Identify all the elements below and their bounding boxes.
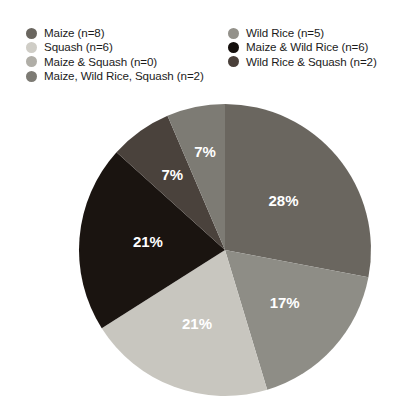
legend-label-squash: Squash (n=6) bbox=[44, 40, 113, 54]
legend-item-maize-squash[interactable]: Maize & Squash (n=0) bbox=[26, 55, 204, 69]
legend-swatch-wild-rice-icon bbox=[228, 28, 239, 39]
legend-item-squash[interactable]: Squash (n=6) bbox=[26, 40, 204, 54]
pie-slice-label-wild-rice-squash: 7% bbox=[161, 166, 183, 183]
pie-slice-label-maize-wild-rice-squash: 7% bbox=[194, 143, 216, 160]
legend-column-right: Wild Rice (n=5)Maize & Wild Rice (n=6)Wi… bbox=[228, 26, 377, 69]
legend-item-maize[interactable]: Maize (n=8) bbox=[26, 26, 204, 40]
pie-chart-figure: Maize (n=8)Squash (n=6)Maize & Squash (n… bbox=[0, 0, 417, 401]
legend-label-maize-wild-rice-squash: Maize, Wild Rice, Squash (n=2) bbox=[44, 69, 204, 83]
legend-swatch-maize-squash-icon bbox=[26, 56, 37, 67]
pie-slice-label-maize-wild-rice: 21% bbox=[133, 233, 163, 250]
legend-label-wild-rice: Wild Rice (n=5) bbox=[246, 26, 324, 40]
legend-item-wild-rice[interactable]: Wild Rice (n=5) bbox=[228, 26, 377, 40]
legend-swatch-maize-wild-rice-icon bbox=[228, 42, 239, 53]
legend-item-maize-wild-rice-squash[interactable]: Maize, Wild Rice, Squash (n=2) bbox=[26, 69, 204, 83]
chart-legend: Maize (n=8)Squash (n=6)Maize & Squash (n… bbox=[0, 0, 417, 104]
pie-slice-label-maize: 28% bbox=[268, 192, 298, 209]
legend-column-left: Maize (n=8)Squash (n=6)Maize & Squash (n… bbox=[26, 26, 204, 83]
legend-label-wild-rice-squash: Wild Rice & Squash (n=2) bbox=[246, 55, 377, 69]
legend-label-maize-squash: Maize & Squash (n=0) bbox=[44, 55, 157, 69]
legend-swatch-maize-wild-rice-squash-icon bbox=[26, 71, 37, 82]
pie-chart-svg: 28%17%21%21%7%7% bbox=[0, 100, 417, 401]
legend-label-maize: Maize (n=8) bbox=[44, 26, 104, 40]
legend-item-wild-rice-squash[interactable]: Wild Rice & Squash (n=2) bbox=[228, 55, 377, 69]
legend-label-maize-wild-rice: Maize & Wild Rice (n=6) bbox=[246, 40, 368, 54]
pie-slice-label-squash: 21% bbox=[182, 315, 212, 332]
legend-swatch-wild-rice-squash-icon bbox=[228, 56, 239, 67]
pie-chart-area: 28%17%21%21%7%7% bbox=[0, 100, 417, 401]
legend-swatch-squash-icon bbox=[26, 42, 37, 53]
legend-swatch-maize-icon bbox=[26, 28, 37, 39]
legend-item-maize-wild-rice[interactable]: Maize & Wild Rice (n=6) bbox=[228, 40, 377, 54]
pie-slice-label-wild-rice: 17% bbox=[270, 294, 300, 311]
